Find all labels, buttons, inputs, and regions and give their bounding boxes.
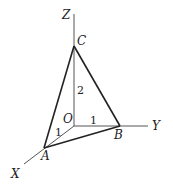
tetrahedron-diagram: Z Y X C O B A 2 1 1 [0, 0, 173, 191]
point-b-label: B [113, 128, 123, 142]
point-c-label: C [77, 34, 86, 48]
x-axis-label: X [10, 167, 20, 181]
point-a-label: A [40, 149, 50, 163]
z-axis-label: Z [61, 8, 71, 22]
length-oa-label: 1 [55, 126, 62, 139]
point-o-label: O [63, 112, 73, 126]
length-ob-label: 1 [90, 114, 97, 127]
y-axis-label: Y [152, 119, 161, 133]
length-oc-label: 2 [77, 84, 84, 97]
